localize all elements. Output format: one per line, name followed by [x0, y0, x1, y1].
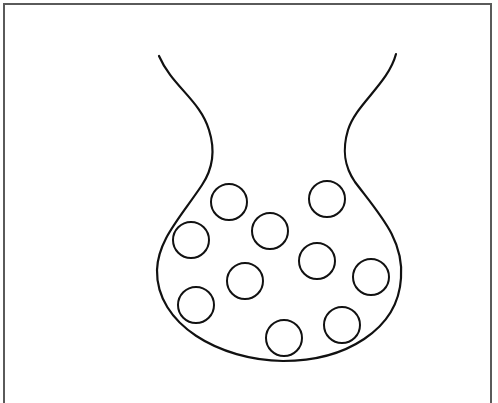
particle-circle	[266, 320, 302, 356]
particle-circle	[353, 259, 389, 295]
particle-circle	[173, 222, 209, 258]
particle-circle	[309, 181, 345, 217]
particle-circle	[178, 287, 214, 323]
vessel-outline	[157, 54, 401, 361]
particle-circle	[211, 184, 247, 220]
particle-circle	[227, 263, 263, 299]
particle-circle	[324, 307, 360, 343]
particle-circle	[252, 213, 288, 249]
particles-group	[173, 181, 389, 356]
particle-circle	[299, 243, 335, 279]
